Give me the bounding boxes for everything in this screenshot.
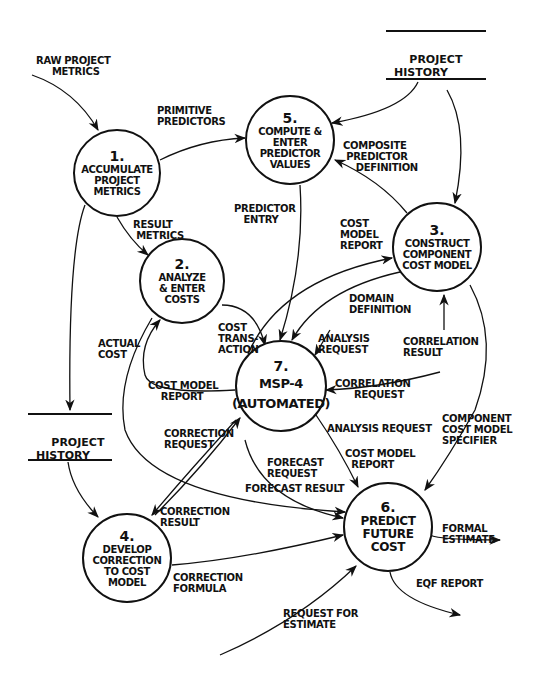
process-1-accumulate-project-metrics: 1. ACCUMULATE PROJECT METRICS — [73, 129, 161, 217]
process-number: 2. — [174, 257, 189, 272]
label-domain-definition: DOMAIN DEFINITION — [349, 293, 411, 315]
data-store-project-history-left: PROJECT HISTORY — [28, 413, 112, 461]
label-correlation-result: CORRELATION RESULT — [403, 336, 479, 358]
label-analysis-request-p6: ANALYSIS REQUEST — [327, 423, 432, 434]
process-name: MSP-4 (AUTOMATED) — [232, 374, 330, 414]
label-actual-cost: ACTUAL COST — [98, 338, 140, 360]
data-store-project-history-top: PROJECT HISTORY — [386, 30, 486, 80]
process-number: 6. — [380, 500, 395, 515]
label-cost-transaction: COST TRANS- ACTION — [218, 322, 259, 355]
label-correction-result: CORRECTION RESULT — [160, 506, 230, 528]
label-raw-project-metrics: RAW PROJECT METRICS — [36, 55, 110, 77]
label-cost-model-report-p6: COST MODEL REPORT — [345, 448, 415, 470]
process-name: COMPUTE & ENTER PREDICTOR VALUES — [258, 126, 322, 170]
label-predictor-entry: PREDICTOR ENTRY — [234, 203, 296, 225]
flow-p1-to-project-history-left — [70, 205, 85, 410]
label-forecast-result: FORECAST RESULT — [245, 483, 344, 494]
process-number: 5. — [282, 111, 297, 126]
process-number: 3. — [429, 223, 444, 238]
label-result-metrics: RESULT METRICS — [133, 219, 184, 241]
process-name: CONSTRUCT COMPONENT COST MODEL — [402, 238, 471, 271]
label-eqf-report: EQF REPORT — [416, 578, 483, 589]
label-request-for-estimate: REQUEST FOR ESTIMATE — [283, 608, 358, 630]
process-2-analyze-enter-costs: 2. ANALYZE & ENTER COSTS — [139, 238, 225, 324]
data-store-label: PROJECT HISTORY — [394, 53, 462, 79]
flow-project-history-to-p4 — [68, 462, 98, 517]
label-component-cost-model-specifier: COMPONENT COST MODEL SPECIFIER — [442, 413, 512, 446]
process-number: 7. — [273, 359, 288, 374]
label-forecast-request: FORECAST REQUEST — [267, 457, 324, 479]
label-analysis-request-p7: ANALYSIS REQUEST — [318, 333, 370, 355]
flow-forecast-result — [245, 440, 343, 518]
flow-project-history-to-p3 — [447, 90, 461, 203]
process-number: 1. — [109, 149, 124, 164]
data-flow-diagram: PROJECT HISTORY PROJECT HISTORY 1. ACCUM… — [0, 0, 543, 673]
data-store-label: PROJECT HISTORY — [36, 436, 104, 462]
process-name: PREDICT FUTURE COST — [361, 515, 416, 554]
label-correction-formula: CORRECTION FORMULA — [173, 572, 243, 594]
label-primitive-predictors: PRIMITIVE PREDICTORS — [157, 105, 225, 127]
process-5-compute-enter-predictor-values: 5. COMPUTE & ENTER PREDICTOR VALUES — [245, 95, 335, 185]
label-formal-estimate: FORMAL ESTIMATE — [442, 523, 495, 545]
label-cost-model-report-p3: COST MODEL REPORT — [340, 218, 383, 251]
label-cost-model-report-p2: COST MODEL REPORT — [148, 380, 218, 402]
label-correlation-request: CORRELATION REQUEST — [335, 378, 411, 400]
flow-project-history-to-p5 — [332, 82, 418, 123]
process-number: 4. — [119, 529, 134, 544]
label-correction-request: CORRECTION REQUEST — [164, 428, 234, 450]
process-name: ACCUMULATE PROJECT METRICS — [81, 164, 153, 197]
process-6-predict-future-cost: 6. PREDICT FUTURE COST — [343, 482, 433, 572]
flow-correction-formula — [172, 535, 343, 565]
process-3-construct-component-cost-model: 3. CONSTRUCT COMPONENT COST MODEL — [392, 202, 482, 292]
flow-primitive-predictors — [160, 138, 245, 160]
label-composite-predictor-definition: COMPOSITE PREDICTOR DEFINITION — [343, 140, 418, 173]
process-4-develop-correction: 4. DEVELOP CORRECTION TO COST MODEL — [82, 513, 172, 603]
process-name: DEVELOP CORRECTION TO COST MODEL — [93, 544, 162, 588]
process-name: ANALYZE & ENTER COSTS — [158, 272, 205, 305]
flow-raw-project-metrics — [32, 75, 98, 130]
flow-component-cost-model-specifier — [425, 285, 486, 490]
